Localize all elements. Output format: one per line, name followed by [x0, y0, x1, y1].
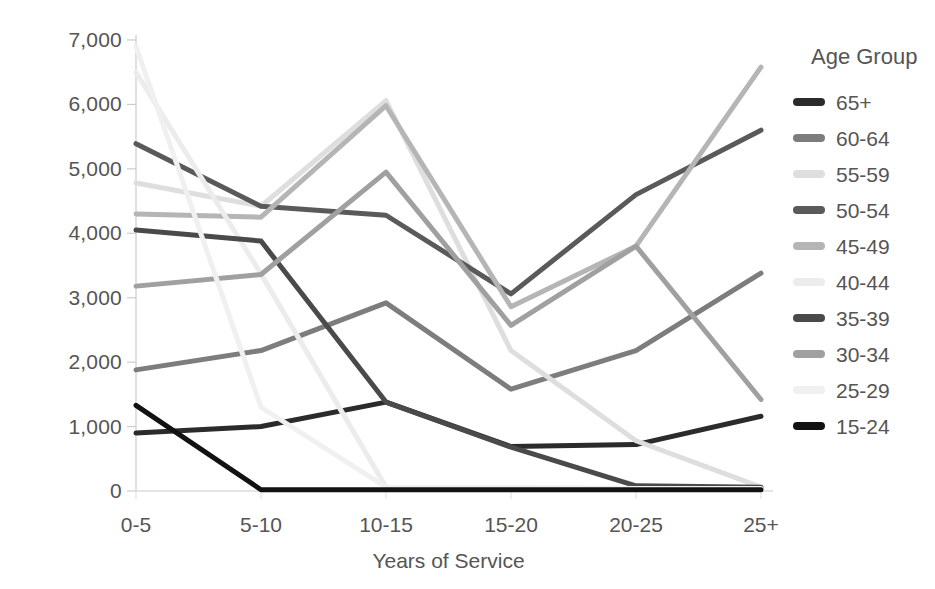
legend-swatch-icon	[793, 350, 825, 358]
x-axis-tick-label: 20-25	[609, 513, 663, 537]
legend-item[interactable]: 15-24	[793, 408, 935, 444]
legend-item-label: 15-24	[836, 416, 890, 437]
series-line-50-54[interactable]	[136, 130, 761, 294]
x-axis-tick-label: 0-5	[121, 513, 151, 537]
legend-swatch-icon	[793, 98, 825, 106]
legend-item-label: 45-49	[836, 236, 890, 257]
legend-item[interactable]: 50-54	[793, 192, 935, 228]
legend-item-label: 30-34	[836, 344, 890, 365]
legend-item-label: 50-54	[836, 200, 890, 221]
legend-swatch-icon	[793, 206, 825, 214]
series-line-45-49[interactable]	[136, 67, 761, 307]
legend-swatch-icon	[793, 422, 825, 430]
x-axis-tick-label: 15-20	[484, 513, 538, 537]
legend-item[interactable]: 35-39	[793, 300, 935, 336]
legend-item[interactable]: 25-29	[793, 372, 935, 408]
series-line-60-64[interactable]	[136, 273, 761, 389]
x-axis-title: Years of Service	[136, 549, 761, 573]
legend-item[interactable]: 45-49	[793, 228, 935, 264]
series-line-15-24[interactable]	[136, 405, 761, 489]
legend-swatch-icon	[793, 242, 825, 250]
x-axis-tick-label: 5-10	[240, 513, 282, 537]
legend-swatch-icon	[793, 386, 825, 394]
legend-swatch-icon	[793, 278, 825, 286]
legend-title: Age Group	[811, 44, 935, 70]
legend-item-label: 55-59	[836, 164, 890, 185]
legend-item[interactable]: 55-59	[793, 156, 935, 192]
legend-swatch-icon	[793, 314, 825, 322]
legend-item-label: 35-39	[836, 308, 890, 329]
legend-swatch-icon	[793, 170, 825, 178]
legend-item-label: 25-29	[836, 380, 890, 401]
legend-item-label: 65+	[836, 92, 872, 113]
series-line-35-39[interactable]	[136, 230, 761, 487]
legend-item-label: 40-44	[836, 272, 890, 293]
x-axis-tick-label: 10-15	[359, 513, 413, 537]
legend-item[interactable]: 40-44	[793, 264, 935, 300]
line-chart: 7,0006,0005,0004,0003,0002,0001,0000 0-5…	[0, 0, 935, 589]
legend-swatch-icon	[793, 134, 825, 142]
legend-item[interactable]: 30-34	[793, 336, 935, 372]
legend-item[interactable]: 65+	[793, 84, 935, 120]
x-axis-tick-label: 25+	[743, 513, 779, 537]
legend: Age Group 65+60-6455-5950-5445-4940-4435…	[793, 44, 935, 444]
legend-items: 65+60-6455-5950-5445-4940-4435-3930-3425…	[793, 84, 935, 444]
legend-item[interactable]: 60-64	[793, 120, 935, 156]
legend-item-label: 60-64	[836, 128, 890, 149]
